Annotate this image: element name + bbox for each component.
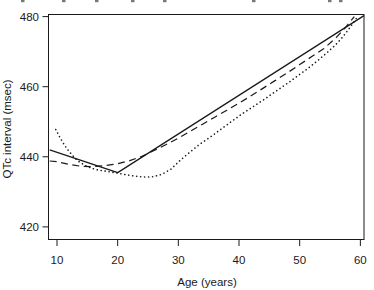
y-tick-label: 460 bbox=[20, 81, 39, 93]
x-tick-label: 30 bbox=[172, 254, 185, 266]
x-tick-label: 40 bbox=[233, 254, 246, 266]
y-tick-label: 420 bbox=[20, 221, 39, 233]
clipped-caption-fragment bbox=[163, 0, 167, 2]
dashed-line-series bbox=[50, 17, 355, 167]
plot-area: 420440460480102030405060 bbox=[20, 0, 367, 266]
x-tick-label: 20 bbox=[111, 254, 124, 266]
clipped-caption-fragment bbox=[131, 0, 135, 2]
x-tick-label: 50 bbox=[293, 254, 306, 266]
dotted-line-series bbox=[56, 16, 358, 177]
clipped-caption-fragment bbox=[339, 0, 343, 2]
qtc-age-line-chart: 420440460480102030405060 QTc interval (m… bbox=[0, 0, 374, 290]
y-axis-title: QTc interval (msec) bbox=[1, 79, 13, 178]
clipped-caption-fragment bbox=[95, 0, 99, 2]
clipped-caption-fragment bbox=[21, 0, 25, 2]
clipped-caption-fragment bbox=[252, 0, 256, 2]
x-axis-title: Age (years) bbox=[177, 276, 237, 288]
clipped-caption-fragment bbox=[62, 0, 66, 2]
x-tick-label: 10 bbox=[51, 254, 64, 266]
y-tick-label: 480 bbox=[20, 11, 39, 23]
x-tick-label: 60 bbox=[354, 254, 367, 266]
y-tick-label: 440 bbox=[20, 151, 39, 163]
solid-line-series bbox=[50, 16, 364, 173]
clipped-caption-fragment bbox=[328, 0, 332, 2]
chart-svg: 420440460480102030405060 QTc interval (m… bbox=[0, 0, 374, 290]
plot-frame bbox=[49, 15, 365, 240]
